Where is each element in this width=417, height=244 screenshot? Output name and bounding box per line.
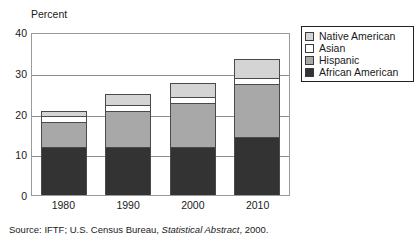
y-tick-10: 10 (5, 150, 27, 161)
bar-segment-native-american-2010[interactable] (234, 59, 280, 78)
x-tick-1990: 1990 (96, 199, 161, 211)
bar-segment-african-american-2010[interactable] (234, 137, 280, 195)
bar-segment-native-american-1990[interactable] (105, 94, 151, 104)
stacked-bar-1990[interactable] (105, 94, 151, 195)
legend-label-asian: Asian (319, 42, 345, 54)
legend-swatch-asian (305, 44, 314, 53)
source-suffix: , 2000. (239, 224, 268, 235)
bar-group (32, 34, 289, 195)
x-tick-2010: 2010 (225, 199, 290, 211)
x-tick-2000: 2000 (161, 199, 226, 211)
legend-label-hispanic: Hispanic (319, 54, 359, 66)
legend-item-african-american: African American (305, 66, 409, 78)
y-tick-20: 20 (5, 110, 27, 121)
y-tick-40: 40 (5, 28, 27, 39)
legend-item-asian: Asian (305, 42, 409, 54)
source-note: Source: IFTF; U.S. Census Bureau, Statis… (9, 224, 268, 236)
legend-swatch-hispanic (305, 56, 314, 65)
bar-segment-african-american-1980[interactable] (41, 147, 87, 195)
legend-swatch-african-american (305, 68, 314, 77)
legend-label-native-american: Native American (319, 30, 395, 42)
stacked-bar-1980[interactable] (41, 111, 87, 196)
x-tick-1980: 1980 (31, 199, 96, 211)
legend-swatch-native-american (305, 32, 314, 41)
chart-figure: Percent 40 30 20 10 0 1980 1990 2000 201… (0, 0, 417, 244)
bar-segment-hispanic-2010[interactable] (234, 84, 280, 138)
legend-item-hispanic: Hispanic (305, 54, 409, 66)
bar-slot-1980 (32, 34, 96, 195)
source-italic-title: Statistical Abstract (162, 224, 240, 235)
y-tick-0: 0 (5, 191, 27, 202)
bar-segment-native-american-2000[interactable] (170, 83, 216, 97)
legend-item-native-american: Native American (305, 30, 409, 42)
bar-segment-hispanic-1980[interactable] (41, 122, 87, 147)
plot-area (31, 33, 290, 196)
chart-legend: Native American Asian Hispanic African A… (301, 26, 414, 82)
bar-segment-hispanic-2000[interactable] (170, 103, 216, 147)
stacked-bar-2010[interactable] (234, 59, 280, 195)
bar-slot-2000 (161, 34, 225, 195)
bar-segment-african-american-1990[interactable] (105, 147, 151, 195)
source-prefix: Source: IFTF; U.S. Census Bureau, (9, 224, 162, 235)
bar-segment-hispanic-1990[interactable] (105, 111, 151, 147)
bar-slot-2010 (225, 34, 289, 195)
stacked-bar-2000[interactable] (170, 83, 216, 195)
x-axis-tick-labels: 1980 1990 2000 2010 (31, 199, 290, 211)
bar-segment-african-american-2000[interactable] (170, 147, 216, 195)
legend-label-african-american: African American (319, 66, 398, 78)
bar-slot-1990 (96, 34, 160, 195)
y-tick-30: 30 (5, 69, 27, 80)
